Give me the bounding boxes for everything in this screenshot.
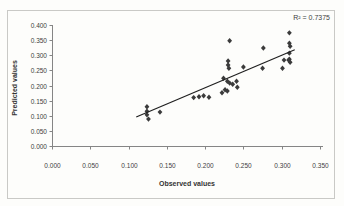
- x-tick-label: 0.100: [121, 162, 138, 169]
- x-tick-label: 0.250: [235, 162, 252, 169]
- scatter-point: [241, 64, 246, 69]
- trend-line: [136, 50, 295, 117]
- y-tick-label: 0.050: [31, 128, 48, 135]
- scatter-point: [201, 93, 206, 98]
- scatter-point: [260, 66, 265, 71]
- x-tick-label: 0.350: [312, 162, 329, 169]
- y-tick-label: 0.200: [31, 83, 48, 90]
- scatter-point: [235, 85, 240, 90]
- r-squared-annotation: R² = 0.7375: [293, 14, 330, 21]
- x-tick-label: 0.200: [197, 162, 214, 169]
- scatter-point: [261, 45, 266, 50]
- x-axis-title: Observed values: [159, 180, 215, 187]
- scatter-point: [158, 109, 163, 114]
- scatter-point: [207, 95, 212, 100]
- y-tick-label: 0.250: [31, 67, 48, 74]
- scatter-plot: 0.0000.0500.1000.1500.2000.2500.3000.350…: [0, 0, 344, 206]
- scatter-point: [227, 38, 232, 43]
- scatter-point: [280, 66, 285, 71]
- scatter-point: [197, 94, 202, 99]
- y-tick-label: 0.300: [31, 52, 48, 59]
- y-tick-label: 0.000: [31, 143, 48, 150]
- scatter-point: [287, 30, 292, 35]
- scatter-point: [234, 79, 239, 84]
- scatter-point: [191, 95, 196, 100]
- y-tick-label: 0.400: [31, 22, 48, 29]
- x-tick-label: 0.000: [44, 162, 61, 169]
- y-tick-label: 0.100: [31, 113, 48, 120]
- y-axis-title: Predicted values: [11, 60, 18, 116]
- y-tick-label: 0.150: [31, 98, 48, 105]
- scatter-point: [282, 57, 287, 62]
- x-tick-label: 0.050: [82, 162, 99, 169]
- x-tick-label: 0.300: [274, 162, 291, 169]
- chart-figure: 0.0000.0500.1000.1500.2000.2500.3000.350…: [0, 0, 344, 206]
- y-tick-label: 0.350: [31, 37, 48, 44]
- x-tick-label: 0.150: [159, 162, 176, 169]
